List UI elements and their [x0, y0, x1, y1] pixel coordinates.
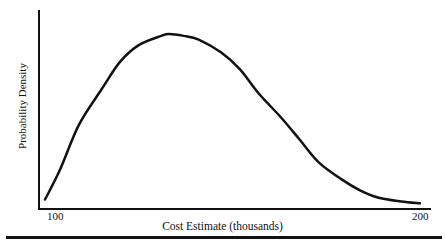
- density-curve: [45, 34, 420, 203]
- x-axis-label: Cost Estimate (thousands): [0, 220, 445, 232]
- density-chart: [0, 0, 445, 250]
- bottom-rule: [6, 236, 442, 239]
- y-axis-label: Probability Density: [16, 56, 28, 156]
